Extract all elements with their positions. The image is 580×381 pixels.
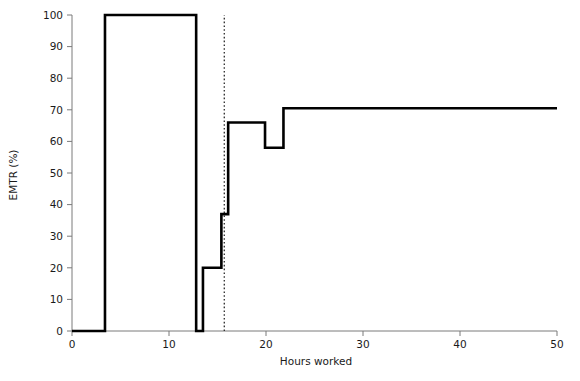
x-tick-label: 20: [259, 338, 272, 350]
series-emtr: [72, 15, 557, 331]
data-series-layer: [72, 15, 557, 331]
x-tick-label: 30: [356, 338, 369, 350]
y-tick-label: 50: [50, 167, 63, 179]
y-tick-label: 70: [50, 104, 63, 116]
x-axis-title: Hours worked: [280, 355, 352, 367]
emtr-step-chart: 0102030405060708090100 01020304050 Hours…: [0, 0, 580, 381]
y-tick-label: 40: [50, 198, 63, 210]
y-tick-label: 10: [50, 293, 63, 305]
x-tick-label: 10: [162, 338, 175, 350]
y-tick-label: 80: [50, 72, 63, 84]
x-tick-label: 0: [69, 338, 76, 350]
y-tick-label: 30: [50, 230, 63, 242]
y-axis: 0102030405060708090100: [43, 9, 72, 337]
x-axis: 01020304050: [69, 331, 564, 350]
y-tick-label: 60: [50, 135, 63, 147]
x-tick-label: 50: [550, 338, 563, 350]
y-tick-label: 100: [43, 9, 63, 21]
y-tick-label: 0: [56, 325, 63, 337]
y-axis-title: EMTR (%): [7, 150, 19, 201]
y-tick-label: 90: [50, 40, 63, 52]
y-tick-label: 20: [50, 262, 63, 274]
x-tick-label: 40: [453, 338, 466, 350]
chart-container: 0102030405060708090100 01020304050 Hours…: [0, 0, 580, 381]
